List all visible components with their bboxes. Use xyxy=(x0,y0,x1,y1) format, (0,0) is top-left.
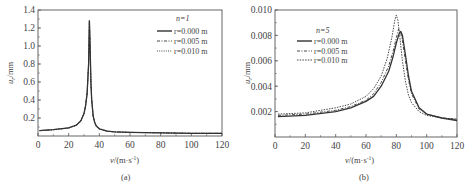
y-tick-label: 0.2 xyxy=(23,113,35,123)
x-tick-label: 0 xyxy=(36,140,41,150)
legend-item-a-0: r=0.000 m xyxy=(174,27,208,36)
y-tick-label: 0.6 xyxy=(23,77,35,87)
panel-a: 0.20.40.60.81.01.21.4 020406080100120 ur… xyxy=(5,5,229,182)
x-axis-label-a: v/(m·s-1) xyxy=(110,155,139,165)
y-tick-label: 1.4 xyxy=(23,5,35,15)
series-lines-b xyxy=(278,15,457,120)
legend-item-a-2: r=0.010 m xyxy=(174,47,208,56)
x-tick-label: 60 xyxy=(361,141,371,151)
caption-b: (b) xyxy=(359,172,369,182)
series-line-solid xyxy=(278,32,457,121)
x-tick-label: 120 xyxy=(450,141,465,151)
series-line-dotted xyxy=(278,15,457,119)
legend-item-a-1: r=0.005 m xyxy=(174,37,208,46)
figure: 0.20.40.60.81.01.21.4 020406080100120 ur… xyxy=(0,0,466,184)
y-tick-label: 0.008 xyxy=(251,31,273,41)
x-tick-label: 120 xyxy=(215,140,230,150)
legend-title-b: n=5 xyxy=(316,26,329,35)
legend-item-b-2: r=0.010 m xyxy=(314,56,348,65)
legend-a: n=1 r=0.000 m r=0.005 m r=0.010 m xyxy=(157,14,208,56)
y-tick-label: 0.8 xyxy=(23,59,35,69)
x-axis-label-b: v/(m·s-1) xyxy=(345,155,374,165)
x-tick-label: 40 xyxy=(95,140,105,150)
x-tick-label: 80 xyxy=(392,141,402,151)
legend-item-b-0: r=0.000 m xyxy=(314,37,348,46)
x-tick-label: 60 xyxy=(125,140,135,150)
series-line-dashdot xyxy=(278,29,457,119)
plot-frame-b xyxy=(275,10,457,137)
y-tick-label: 0.006 xyxy=(251,56,273,66)
x-tick-label: 80 xyxy=(156,140,166,150)
y-tick-label: 1.0 xyxy=(23,41,35,51)
legend-title-a: n=1 xyxy=(176,14,189,23)
x-tick-label: 20 xyxy=(301,141,311,151)
x-tick-label: 0 xyxy=(273,141,278,151)
y-axis-label-b: ur/mm xyxy=(242,61,253,84)
x-tick-label: 40 xyxy=(331,141,341,151)
y-tick-label: 0.002 xyxy=(251,107,273,117)
x-tick-label: 100 xyxy=(420,141,435,151)
x-tick-label: 100 xyxy=(184,140,199,150)
legend-b: n=5 r=0.000 m r=0.005 m r=0.010 m xyxy=(297,26,348,65)
y-ticks-b: 0.0020.0040.0060.0080.010 xyxy=(251,5,278,124)
x-tick-label: 20 xyxy=(64,140,74,150)
legend-item-b-1: r=0.005 m xyxy=(314,47,348,56)
y-axis-label-a: ur/mm xyxy=(5,61,16,84)
caption-a: (a) xyxy=(121,172,131,182)
y-tick-label: 0.004 xyxy=(251,82,273,92)
y-tick-label: 0.010 xyxy=(251,5,273,15)
y-tick-label: 1.2 xyxy=(23,23,35,33)
panel-b: 0.0020.0040.0060.0080.010 02040608010012… xyxy=(242,5,464,182)
y-tick-label: 0.4 xyxy=(23,95,35,105)
